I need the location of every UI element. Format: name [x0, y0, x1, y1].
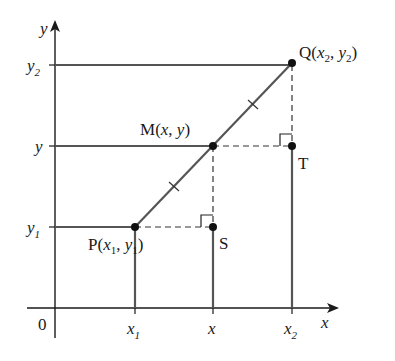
x2-label: x2	[283, 319, 298, 341]
y-label: y	[33, 137, 43, 156]
label-m: M(x, y)	[140, 120, 190, 139]
point-q	[288, 59, 296, 67]
point-p	[131, 223, 139, 231]
x1-label: x1	[126, 319, 140, 341]
label-q: Q(x2, y2)	[299, 43, 357, 64]
point-m	[209, 142, 217, 150]
x-label: x	[207, 319, 216, 338]
y2-label: y2	[25, 56, 41, 78]
point-s	[209, 223, 217, 231]
y-axis-label: y	[38, 19, 48, 38]
label-s: S	[219, 234, 228, 253]
midpoint-diagram: y x 0 y2 y y1 x1 x x2 Q(x2, y2) M(x, y) …	[0, 0, 395, 361]
y1-label: y1	[25, 218, 40, 240]
x-axis-label: x	[320, 313, 329, 332]
point-t	[288, 142, 296, 150]
origin-label: 0	[38, 315, 47, 334]
label-t: T	[298, 154, 309, 173]
